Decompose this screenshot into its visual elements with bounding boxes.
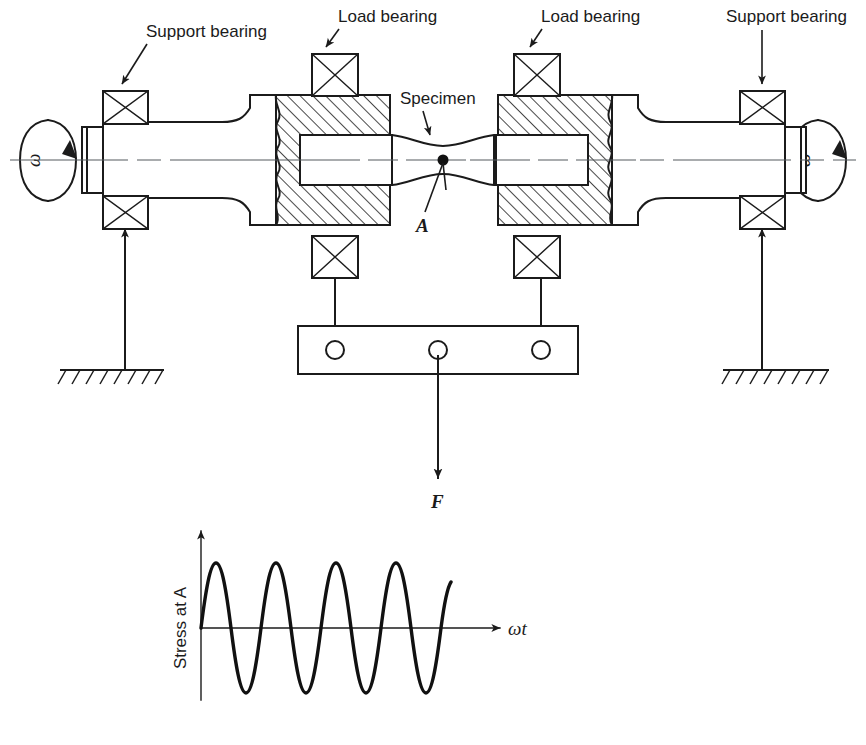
ground-left-hatch <box>58 370 163 384</box>
load-bearing-right-label: Load bearing <box>541 7 640 26</box>
rotating-beam-fatigue-diagram: ω ω <box>0 0 866 745</box>
load-bearing-right-upper <box>514 54 560 96</box>
figure-canvas: ω ω <box>0 0 866 745</box>
load-bearing-right-lower <box>514 236 560 278</box>
stress-plot: Stress at A ωt <box>171 531 527 700</box>
support-bearing-right-upper <box>740 91 785 124</box>
force-label: F <box>430 491 444 512</box>
support-bearing-left-lower <box>103 196 148 229</box>
beam-pivot-left <box>326 341 344 359</box>
beam-pivot-right <box>532 341 550 359</box>
support-bearing-right-lower <box>740 196 785 229</box>
load-bearing-left-label: Load bearing <box>338 7 437 26</box>
support-bearing-left-upper <box>103 91 148 124</box>
ground-left <box>58 229 163 384</box>
ground-right <box>722 229 828 384</box>
load-bearing-left-lower <box>312 236 358 278</box>
specimen-leader <box>423 111 430 135</box>
load-bearing-left-upper <box>312 54 358 96</box>
support-bearing-left-label: Support bearing <box>146 22 267 41</box>
load-bearing-left-leader <box>326 29 339 47</box>
ground-right-hatch <box>722 370 828 384</box>
plot-x-axis-label: ωt <box>508 618 527 639</box>
support-bearing-left-leader <box>122 44 147 84</box>
plot-y-axis-label: Stress at A <box>171 586 190 669</box>
point-a-label: A <box>415 215 429 236</box>
load-bearing-right-leader <box>530 29 542 47</box>
specimen-label: Specimen <box>400 89 476 108</box>
support-bearing-right-label: Support bearing <box>726 7 847 26</box>
